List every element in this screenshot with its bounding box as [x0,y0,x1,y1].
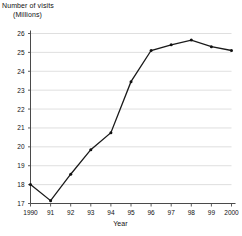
x-tick-label: 2000 [220,209,242,216]
line-chart: Number of visits (Millions) 171819202122… [0,0,241,236]
y-tick-label: 19 [9,162,25,169]
gridlines-group [31,34,232,185]
y-tick-label: 17 [9,200,25,207]
data-point [210,45,213,48]
y-tick-label: 22 [9,106,25,113]
y-tick-label: 24 [9,68,25,75]
data-point [230,49,233,52]
y-tick-label: 23 [9,87,25,94]
data-point [49,199,52,202]
data-point [89,148,92,151]
data-point [150,49,153,52]
data-points-group [29,39,233,203]
tick-marks-group [28,34,232,207]
data-point [170,43,173,46]
y-tick-label: 21 [9,124,25,131]
y-tick-label: 20 [9,143,25,150]
plot-area [0,0,241,236]
y-tick-label: 25 [9,49,25,56]
data-point [130,80,133,83]
y-tick-label: 26 [9,30,25,37]
y-tick-label: 18 [9,181,25,188]
x-axis-title: Year [0,220,241,229]
data-point [190,39,193,42]
data-point [109,131,112,134]
data-point [69,173,72,176]
data-point [29,183,32,186]
data-series-line [31,40,232,201]
